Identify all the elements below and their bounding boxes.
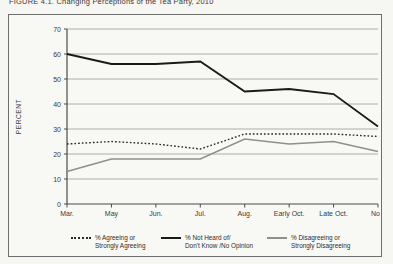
legend-label-disagreeing: % Disagreeing or Strongly Disagreeing — [291, 234, 350, 251]
x-tick-label-7: Nov. — [371, 210, 380, 217]
x-tick-label-3: Jul. — [195, 210, 206, 217]
line-chart: 010203040506070Mar.MayJun.Jul.Aug.Early … — [9, 15, 380, 233]
series-line-2 — [67, 139, 378, 172]
legend-item-not-heard: % Not Heard of/ Don't Know /No Opinion — [161, 234, 253, 251]
agreeing-dotted-line-swatch — [71, 237, 91, 239]
y-tick-label-40: 40 — [53, 101, 61, 108]
legend-label-line: Don't Know /No Opinion — [185, 242, 253, 250]
y-tick-label-10: 10 — [53, 176, 61, 183]
legend-label-agreeing: % Agreeing or Strongly Agreeing — [95, 234, 145, 251]
y-tick-label-0: 0 — [57, 201, 61, 208]
x-tick-label-6: Late Oct. — [319, 210, 347, 217]
legend-label-line: % Disagreeing or — [291, 234, 350, 242]
legend-label-line: Strongly Disagreeing — [291, 242, 350, 250]
series-line-1 — [67, 54, 378, 127]
x-tick-label-1: May — [105, 210, 119, 218]
y-tick-label-60: 60 — [53, 51, 61, 58]
chart-legend: % Agreeing or Strongly Agreeing % Not He… — [9, 234, 381, 254]
x-tick-label-0: Mar. — [60, 210, 74, 217]
scanned-figure-page: FIGURE 4.1. Changing Perceptions of the … — [0, 0, 393, 264]
x-tick-label-2: Jun. — [149, 210, 162, 217]
figure-title: FIGURE 4.1. Changing Perceptions of the … — [9, 0, 214, 6]
chart-frame: 010203040506070Mar.MayJun.Jul.Aug.Early … — [8, 14, 382, 257]
legend-label-line: % Not Heard of/ — [185, 234, 253, 242]
legend-label-not-heard: % Not Heard of/ Don't Know /No Opinion — [185, 234, 253, 251]
disagreeing-gray-line-swatch — [267, 237, 287, 239]
legend-label-line: Strongly Agreeing — [95, 242, 145, 250]
not-heard-solid-line-swatch — [161, 237, 181, 239]
legend-item-disagreeing: % Disagreeing or Strongly Disagreeing — [267, 234, 350, 251]
y-tick-label-20: 20 — [53, 151, 61, 158]
y-tick-label-70: 70 — [53, 26, 61, 33]
x-tick-label-4: Aug. — [238, 210, 252, 218]
x-tick-label-5: Early Oct. — [274, 210, 305, 218]
y-tick-label-30: 30 — [53, 126, 61, 133]
legend-item-agreeing: % Agreeing or Strongly Agreeing — [71, 234, 145, 251]
y-tick-label-50: 50 — [53, 76, 61, 83]
y-axis-title: PERCENT — [15, 99, 22, 134]
legend-label-line: % Agreeing or — [95, 234, 145, 242]
